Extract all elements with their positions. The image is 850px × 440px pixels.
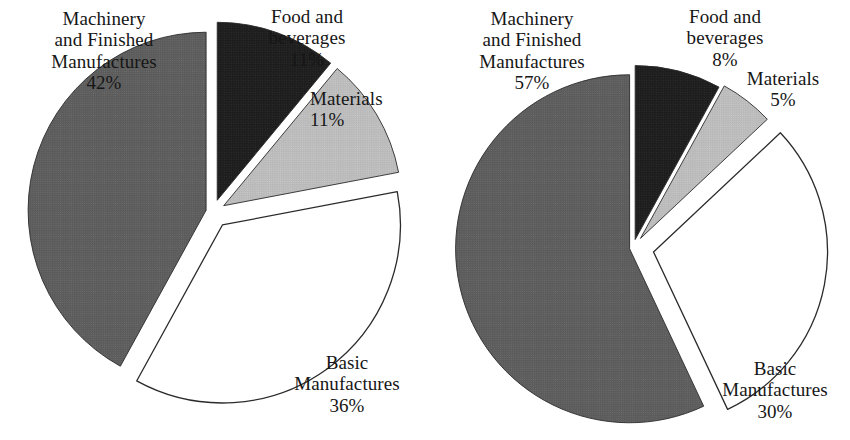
label-text-line: Manufactures — [6, 51, 202, 72]
label-percent: 11% — [232, 49, 382, 70]
label-percent: 42% — [6, 72, 202, 93]
label-percent: 5% — [718, 89, 848, 110]
label-right-basic-manufactures: Basic Manufactures 30% — [700, 358, 850, 422]
label-text-line: Food and — [650, 6, 800, 27]
label-text-line: beverages — [650, 27, 800, 48]
label-text-line: and Finished — [434, 29, 630, 50]
label-text-line: Manufactures — [700, 379, 850, 400]
label-percent: 30% — [700, 401, 850, 422]
label-text-line: Materials — [310, 88, 440, 109]
label-left-basic-manufactures: Basic Manufactures 36% — [262, 352, 432, 416]
label-left-machinery: Machinery and Finished Manufactures 42% — [6, 8, 202, 93]
label-right-machinery: Machinery and Finished Manufactures 57% — [434, 8, 630, 93]
label-text-line: beverages — [232, 27, 382, 48]
label-text-line: Basic — [700, 358, 850, 379]
label-left-materials: Materials 11% — [310, 88, 440, 131]
label-left-food-and-beverages: Food and beverages 11% — [232, 6, 382, 70]
label-percent: 8% — [650, 49, 800, 70]
label-text-line: Basic — [262, 352, 432, 373]
label-right-materials: Materials 5% — [718, 68, 848, 111]
label-text-line: Manufactures — [434, 51, 630, 72]
label-right-food-and-beverages: Food and beverages 8% — [650, 6, 800, 70]
label-percent: 11% — [310, 109, 440, 130]
label-percent: 57% — [434, 72, 630, 93]
label-percent: 36% — [262, 395, 432, 416]
label-text-line: Manufactures — [262, 373, 432, 394]
label-text-line: Machinery — [434, 8, 630, 29]
label-text-line: Machinery — [6, 8, 202, 29]
pie-chart-figure: Food and beverages 11%Materials 11%Basic… — [0, 0, 850, 440]
label-text-line: Materials — [718, 68, 848, 89]
label-text-line: and Finished — [6, 29, 202, 50]
label-text-line: Food and — [232, 6, 382, 27]
